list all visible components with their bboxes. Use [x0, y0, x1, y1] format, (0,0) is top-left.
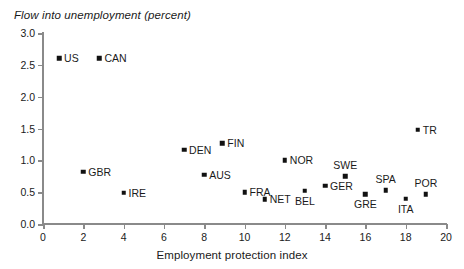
y-tick-label: 2.0	[20, 91, 35, 103]
y-tick-label: 3.0	[20, 27, 35, 39]
data-point-label: TR	[423, 124, 437, 136]
y-tick-mark	[38, 97, 43, 99]
x-tick-mark	[446, 224, 448, 229]
data-point[interactable]	[323, 184, 328, 189]
plot-area: 0.00.51.01.52.02.53.0 USCANGBRIREDENAUSF…	[43, 33, 446, 224]
data-point[interactable]	[262, 197, 267, 202]
data-point-label: US	[64, 52, 79, 64]
y-tick-mark	[38, 192, 43, 194]
data-point-label: NOR	[290, 154, 313, 166]
x-tick-label: 4	[121, 231, 127, 243]
data-point-label: GRE	[354, 198, 377, 210]
data-point-label: ITA	[398, 203, 414, 215]
data-point-label: IRE	[129, 187, 147, 199]
y-tick-label: 0.0	[20, 218, 35, 230]
x-tick-label: 6	[161, 231, 167, 243]
y-tick-label: 1.0	[20, 154, 35, 166]
x-tick-label: 10	[239, 231, 251, 243]
x-tick-mark	[285, 224, 287, 229]
data-point[interactable]	[121, 191, 126, 196]
x-tick-mark	[124, 224, 126, 229]
x-tick-label: 20	[440, 231, 452, 243]
x-tick-label: 16	[360, 231, 372, 243]
data-point-label: POR	[414, 177, 437, 189]
x-axis-ticks: 02468101214161820	[43, 224, 446, 244]
x-tick-label: 18	[400, 231, 412, 243]
data-point-label: DEN	[189, 144, 211, 156]
data-point-label: AUS	[209, 169, 231, 181]
data-point[interactable]	[202, 173, 207, 178]
data-point-label: SWE	[333, 159, 357, 171]
x-tick-mark	[164, 224, 166, 229]
x-tick-mark	[365, 224, 367, 229]
data-point[interactable]	[363, 192, 368, 197]
data-point[interactable]	[57, 56, 62, 61]
data-point[interactable]	[220, 141, 225, 146]
y-tick-label: 0.5	[20, 186, 35, 198]
data-point[interactable]	[403, 196, 408, 201]
x-tick-mark	[245, 224, 247, 229]
data-point-label: SPA	[375, 173, 395, 185]
x-tick-mark	[83, 224, 85, 229]
chart-title: Flow into unemployment (percent)	[14, 9, 191, 21]
y-tick-mark	[38, 129, 43, 131]
data-point-label: NET	[270, 193, 291, 205]
y-tick-mark	[38, 65, 43, 67]
x-tick-mark	[204, 224, 206, 229]
y-tick-label: 2.5	[20, 59, 35, 71]
data-point-label: CAN	[104, 52, 126, 64]
data-point[interactable]	[242, 190, 247, 195]
data-point[interactable]	[81, 170, 86, 175]
data-point[interactable]	[283, 158, 288, 163]
data-point[interactable]	[182, 147, 187, 152]
data-point[interactable]	[343, 174, 348, 179]
y-tick-mark	[38, 33, 43, 35]
x-tick-label: 8	[201, 231, 207, 243]
data-point[interactable]	[416, 128, 421, 133]
data-point[interactable]	[303, 189, 308, 194]
x-tick-mark	[406, 224, 408, 229]
data-point-label: FIN	[227, 137, 244, 149]
y-tick-mark	[38, 160, 43, 162]
x-tick-label: 14	[319, 231, 331, 243]
x-tick-label: 0	[40, 231, 46, 243]
data-point[interactable]	[383, 188, 388, 193]
x-tick-label: 12	[279, 231, 291, 243]
y-tick-label: 1.5	[20, 123, 35, 135]
scatter-chart-figure: Flow into unemployment (percent) 0.00.51…	[0, 0, 464, 269]
data-point-label: GER	[330, 180, 353, 192]
x-tick-label: 2	[80, 231, 86, 243]
data-point[interactable]	[97, 56, 102, 61]
data-point-label: FRA	[250, 186, 271, 198]
data-point-label: GBR	[88, 166, 111, 178]
data-point[interactable]	[424, 192, 429, 197]
data-point-label: BEL	[295, 195, 315, 207]
x-axis-label: Employment protection index	[0, 249, 464, 261]
x-tick-mark	[43, 224, 45, 229]
x-tick-mark	[325, 224, 327, 229]
